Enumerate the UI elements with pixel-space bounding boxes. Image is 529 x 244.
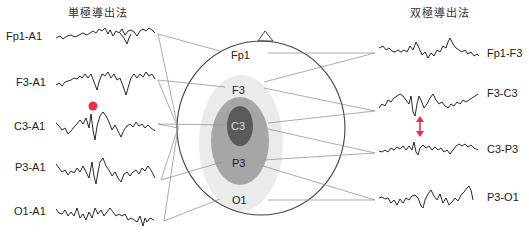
head [177,31,345,215]
nose-icon [258,31,273,41]
trace-c3-a1 [56,112,155,140]
electrode-p3: P3 [232,157,245,169]
electrode-fp1: Fp1 [231,49,250,61]
trace-fp1-a1 [56,28,155,39]
monopolar-traces [56,28,155,226]
spike-marker-dot [89,102,98,111]
trace-fp1-f3 [379,38,479,58]
trace-c3-p3 [379,142,478,155]
phase-reversal-arrow-icon [416,116,424,137]
eeg-montage-diagram: Fp1 F3 C3 P3 O1 [0,0,529,244]
trace-p3-o1 [379,186,473,208]
trace-p3-a1 [56,158,155,184]
electrode-o1: O1 [232,194,247,206]
trace-f3-c3 [379,94,478,116]
trace-f3-a1 [56,72,155,95]
trace-o1-a1 [56,208,154,226]
electrode-c3: C3 [231,120,245,132]
bipolar-traces [379,38,479,208]
electrode-f3: F3 [232,84,245,96]
